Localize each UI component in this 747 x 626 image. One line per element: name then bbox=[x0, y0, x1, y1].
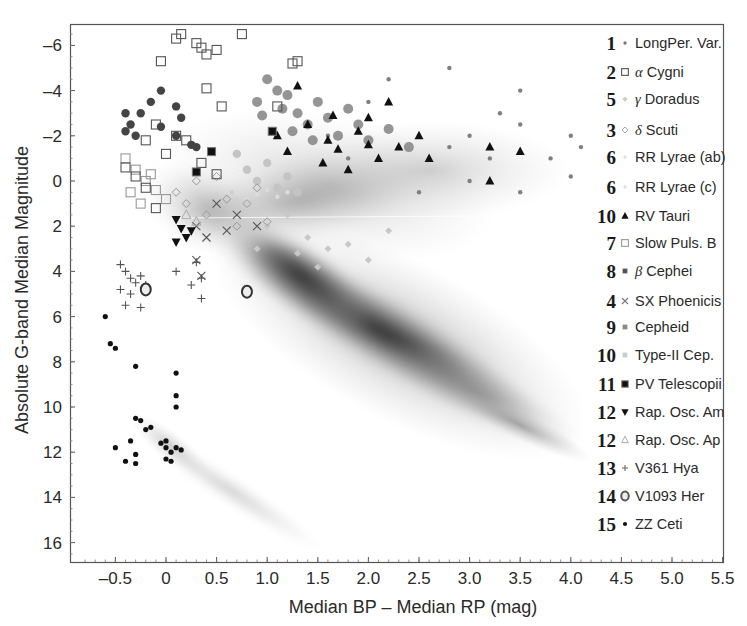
legend-number: 8 bbox=[607, 261, 617, 282]
legend-label: Type-II Cep. bbox=[635, 347, 714, 363]
y-tick-label: –4 bbox=[43, 82, 62, 101]
legend-item: 6RR Lyrae (ab) bbox=[607, 147, 726, 168]
legend-label: RR Lyrae (ab) bbox=[635, 149, 726, 165]
x-tick-label: –0.5 bbox=[99, 569, 132, 588]
x-tick-label: 5.5 bbox=[711, 569, 735, 588]
x-axis-title: Median BP – Median RP (mag) bbox=[289, 597, 537, 617]
legend-label: SX Phoenicis bbox=[635, 293, 721, 309]
legend-item: 2α Cygni bbox=[607, 62, 684, 83]
legend-label: δ Scuti bbox=[635, 122, 678, 138]
legend-number: 9 bbox=[607, 317, 617, 338]
legend-label: RR Lyrae (c) bbox=[635, 179, 717, 195]
y-tick-label: 6 bbox=[53, 308, 62, 327]
x-tick-label: 0 bbox=[161, 569, 170, 588]
legend: 1LongPer. Var.2α Cygni5γ Doradus3δ Scuti… bbox=[597, 33, 726, 535]
legend-label: Rap. Osc. Ap bbox=[635, 432, 720, 448]
legend-label: Slow Puls. B bbox=[635, 235, 716, 251]
y-tick-label: 2 bbox=[53, 217, 62, 236]
legend-label: Rap. Osc. Am bbox=[635, 404, 724, 420]
legend-marker-icon bbox=[623, 185, 626, 188]
legend-marker-icon bbox=[622, 436, 629, 442]
legend-marker-icon bbox=[622, 96, 627, 101]
legend-number: 7 bbox=[607, 233, 617, 254]
x-tick-label: 3.5 bbox=[508, 569, 532, 588]
legend-label: Cepheid bbox=[635, 319, 689, 335]
x-tick-label: 4.5 bbox=[610, 569, 634, 588]
y-tick-label: 4 bbox=[53, 262, 62, 281]
legend-label: RV Tauri bbox=[635, 208, 690, 224]
legend-item: 15ZZ Ceti bbox=[597, 514, 683, 535]
legend-item: 12Rap. Osc. Ap bbox=[597, 430, 720, 451]
legend-label: PV Telescopii bbox=[635, 376, 722, 392]
y-tick-label: 14 bbox=[43, 488, 62, 507]
legend-label: β Cephei bbox=[634, 263, 692, 279]
y-tick-label: 12 bbox=[43, 443, 62, 462]
y-tick-label: 0 bbox=[53, 172, 62, 191]
legend-item: 13V361 Hya bbox=[597, 458, 700, 479]
x-axis: –0.500.51.01.52.02.53.03.54.04.55.05.5 bbox=[85, 557, 734, 588]
legend-number: 6 bbox=[607, 147, 617, 168]
legend-item: 6RR Lyrae (c) bbox=[607, 177, 717, 198]
legend-marker-icon bbox=[623, 155, 626, 158]
legend-item: 9Cepheid bbox=[607, 317, 690, 338]
legend-number: 1 bbox=[607, 33, 617, 54]
legend-item: 12Rap. Osc. Am bbox=[597, 402, 724, 423]
x-tick-label: 2.0 bbox=[357, 569, 381, 588]
legend-marker-icon bbox=[622, 127, 628, 133]
x-tick-label: 5.0 bbox=[660, 569, 684, 588]
legend-number: 10 bbox=[597, 345, 616, 366]
x-tick-label: 0.5 bbox=[205, 569, 229, 588]
legend-marker-icon bbox=[623, 353, 628, 358]
legend-marker-icon bbox=[623, 41, 626, 44]
legend-item: 1LongPer. Var. bbox=[607, 33, 722, 54]
legend-marker-icon bbox=[622, 465, 628, 471]
legend-marker-icon bbox=[622, 69, 629, 76]
y-tick-label: 8 bbox=[53, 353, 62, 372]
legend-item: 10RV Tauri bbox=[597, 206, 690, 227]
series-cephei bbox=[121, 86, 200, 151]
legend-number: 15 bbox=[597, 514, 616, 535]
legend-label: α Cygni bbox=[635, 64, 684, 80]
legend-marker-icon bbox=[623, 522, 627, 526]
legend-marker-icon bbox=[621, 492, 629, 501]
legend-marker-icon bbox=[622, 381, 628, 387]
legend-number: 6 bbox=[607, 177, 617, 198]
y-tick-label: –6 bbox=[43, 36, 62, 55]
legend-marker-icon bbox=[622, 298, 628, 304]
legend-marker-icon bbox=[623, 325, 628, 330]
legend-label: ZZ Ceti bbox=[635, 516, 683, 532]
x-tick-label: 1.0 bbox=[255, 569, 279, 588]
legend-number: 13 bbox=[597, 458, 616, 479]
legend-item: 7Slow Puls. B bbox=[607, 233, 717, 254]
legend-marker-icon bbox=[621, 212, 628, 219]
series-v361-hya bbox=[116, 258, 205, 311]
legend-number: 4 bbox=[607, 291, 617, 312]
legend-marker-icon bbox=[621, 409, 628, 416]
legend-label: γ Doradus bbox=[635, 91, 700, 107]
legend-number: 10 bbox=[597, 206, 616, 227]
legend-number: 2 bbox=[607, 62, 617, 83]
y-tick-label: 10 bbox=[43, 398, 62, 417]
legend-item: 14V1093 Her bbox=[597, 486, 704, 507]
legend-item: 5γ Doradus bbox=[607, 89, 700, 110]
hr-diagram-chart: –0.500.51.01.52.02.53.03.54.04.55.05.5 –… bbox=[0, 0, 747, 626]
legend-item: 8β Cephei bbox=[607, 261, 693, 282]
legend-item: 11PV Telescopii bbox=[598, 374, 722, 395]
y-axis-title: Absolute G-band Median Magnitude bbox=[12, 146, 32, 434]
y-tick-label: –2 bbox=[43, 127, 62, 146]
legend-marker-icon bbox=[622, 240, 629, 247]
x-tick-label: 2.5 bbox=[407, 569, 431, 588]
legend-number: 5 bbox=[607, 89, 617, 110]
legend-number: 3 bbox=[607, 120, 617, 141]
y-tick-label: 16 bbox=[43, 534, 62, 553]
background-density bbox=[122, 81, 623, 561]
legend-item: 3δ Scuti bbox=[607, 120, 679, 141]
legend-item: 10Type-II Cep. bbox=[597, 345, 714, 366]
legend-number: 12 bbox=[597, 402, 616, 423]
x-tick-label: 4.0 bbox=[559, 569, 583, 588]
legend-label: V361 Hya bbox=[635, 460, 700, 476]
legend-label: V1093 Her bbox=[635, 488, 704, 504]
legend-number: 14 bbox=[597, 486, 617, 507]
legend-label: LongPer. Var. bbox=[635, 35, 722, 51]
legend-item: 4SX Phoenicis bbox=[607, 291, 722, 312]
